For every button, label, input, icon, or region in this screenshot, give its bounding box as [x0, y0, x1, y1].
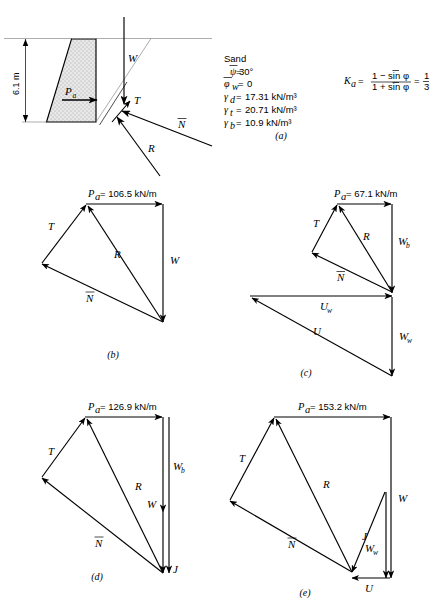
force-polygon-d: P a = 126.9 kN/m W b W J T R N (d) — [42, 401, 185, 583]
phi-symbol: φ — [224, 78, 230, 89]
polygon-d-label-j: J — [173, 563, 179, 575]
polygon-d-vector-r — [87, 419, 163, 573]
gamma-t-equals: = — [236, 104, 242, 115]
vector-n-arrow — [122, 111, 212, 146]
polygon-c-label-r: R — [362, 230, 370, 242]
dimension-arrow-top — [23, 39, 28, 46]
polygon-e-pa-label: P a = 153.2 kN/m — [297, 401, 367, 415]
caption-d: (d) — [91, 571, 103, 583]
phi-w-value: 0 — [247, 78, 252, 89]
polygon-d-vector-n — [42, 478, 163, 573]
gamma-d-symbol: γ — [224, 91, 229, 102]
polygon-c-pa-label: P a = 67.1 kN/m — [333, 188, 398, 202]
polygon-e-label-w: W — [398, 492, 408, 504]
dimension-arrow-bottom — [23, 115, 28, 122]
ka-equation-group: K a = 1 − sin φ 1 + sin φ = 1 3 — [343, 70, 429, 92]
force-polygon-c: P a = 67.1 kN/m W b T R N U w U — [250, 188, 412, 379]
gamma-t-symbol: γ — [224, 104, 229, 115]
polygon-e-label-ww: W w — [365, 542, 378, 557]
polygon-e-vector-j — [352, 492, 385, 572]
gamma-b-subscript: b — [230, 120, 235, 131]
polygon-d-label-wb: W b — [173, 460, 185, 475]
gamma-b-value: 10.9 kN/m³ — [245, 117, 291, 128]
polygon-c-label-t: T — [313, 217, 320, 229]
polygon-e-vector-t — [230, 418, 274, 500]
svg-text:P: P — [87, 401, 95, 412]
svg-text:= 153.2 kN/m: = 153.2 kN/m — [310, 401, 367, 412]
polygon-d-pa-label: P a = 126.9 kN/m — [87, 401, 157, 415]
property-gamma-d: γ d = 17.31 kN/m³ — [224, 91, 297, 105]
polygon-c-label-uw: U w — [320, 300, 332, 315]
gamma-d-equals: = — [236, 91, 242, 102]
svg-text:P: P — [333, 188, 341, 199]
polygon-b-label-w: W — [170, 254, 180, 266]
polygon-c-label-u: U — [313, 325, 322, 337]
svg-text:N: N — [336, 271, 345, 283]
gamma-b-symbol: γ — [224, 117, 229, 128]
figure-svg: 6.1 m W P a T N R (a) Sand ψ 30° — [0, 0, 432, 601]
figure-sheet: 6.1 m W P a T N R (a) Sand ψ 30° — [0, 0, 432, 601]
polygon-e-label-t: T — [239, 452, 246, 464]
polygon-b-label-n: N — [85, 292, 95, 304]
svg-text:N: N — [85, 292, 94, 304]
gamma-t-value: 20.71 kN/m³ — [245, 104, 297, 115]
polygon-d-label-r: R — [134, 480, 142, 492]
polygon-b-label-t: T — [48, 220, 55, 232]
vector-t-label: T — [134, 94, 141, 106]
svg-text:P: P — [64, 85, 72, 97]
caption-c: (c) — [300, 367, 312, 379]
property-phi-w: φ w = 0 — [224, 78, 253, 93]
caption-e: (e) — [299, 587, 311, 599]
polygon-d-label-w: W — [147, 498, 157, 510]
svg-text:w: w — [327, 306, 332, 315]
ka-result-numerator: 1 — [424, 70, 429, 81]
polygon-e-vector-n — [230, 501, 352, 572]
polygon-b-pa-label: P a = 106.5 kN/m — [87, 188, 157, 202]
svg-text:= 67.1 kN/m: = 67.1 kN/m — [346, 188, 398, 199]
vector-t-arrow — [112, 101, 130, 122]
caption-a: (a) — [275, 130, 287, 142]
svg-text:b: b — [406, 241, 410, 250]
polygon-d-label-t: T — [48, 445, 55, 457]
svg-text:b: b — [181, 466, 185, 475]
caption-b: (b) — [107, 349, 119, 361]
polygon-e-label-r: R — [322, 478, 330, 490]
polygon-e-label-n: N — [287, 538, 297, 550]
svg-text:w: w — [407, 336, 412, 345]
ka-lhs-subscript: a — [351, 78, 356, 89]
svg-text:= 106.5 kN/m: = 106.5 kN/m — [100, 188, 157, 199]
vector-n-label: N — [177, 118, 187, 130]
vector-w-label: W — [128, 52, 138, 64]
force-polygon-e: P a = 153.2 kN/m W W w J U T R N (e) — [230, 401, 408, 599]
phi-equals: = — [238, 78, 244, 89]
svg-text:w: w — [373, 548, 378, 557]
ka-equals-2: = — [414, 75, 420, 86]
failure-wedge-line — [100, 82, 128, 125]
polygon-c-label-ww: W w — [399, 330, 412, 345]
property-gamma-t: γ t = 20.71 kN/m³ — [224, 104, 297, 118]
gamma-d-value: 17.31 kN/m³ — [245, 91, 297, 102]
svg-text:a: a — [73, 91, 77, 100]
property-gamma-b: γ b = 10.9 kN/m³ — [224, 117, 291, 131]
ka-result-denominator: 3 — [424, 81, 429, 92]
gamma-b-equals: = — [236, 117, 242, 128]
vector-r-label: R — [147, 142, 155, 154]
svg-text:N: N — [177, 118, 186, 130]
wall-height-label: 6.1 m — [11, 72, 21, 95]
polygon-c-label-n: N — [336, 271, 345, 283]
svg-text:N: N — [287, 538, 296, 550]
svg-text:= 126.9 kN/m: = 126.9 kN/m — [100, 401, 157, 412]
svg-text:P: P — [87, 188, 95, 199]
gamma-t-subscript: t — [230, 107, 233, 118]
ka-numerator: 1 − sin φ — [372, 70, 409, 81]
polygon-b-vector-t — [42, 205, 86, 263]
psi-equals: = — [236, 66, 242, 77]
polygon-c-label-wb: W b — [398, 235, 410, 250]
polygon-d-label-n: N — [94, 537, 104, 549]
force-polygon-b: P a = 106.5 kN/m W T R N (b) — [42, 188, 180, 361]
svg-text:N: N — [94, 537, 103, 549]
soil-properties-panel: Sand ψ 30° = φ w = 0 γ d = 17.31 kN/m³ γ… — [224, 53, 297, 131]
property-psi: ψ 30° = — [230, 66, 254, 78]
polygon-b-label-r: R — [113, 248, 121, 260]
ka-denominator: 1 + sin φ — [372, 81, 409, 92]
